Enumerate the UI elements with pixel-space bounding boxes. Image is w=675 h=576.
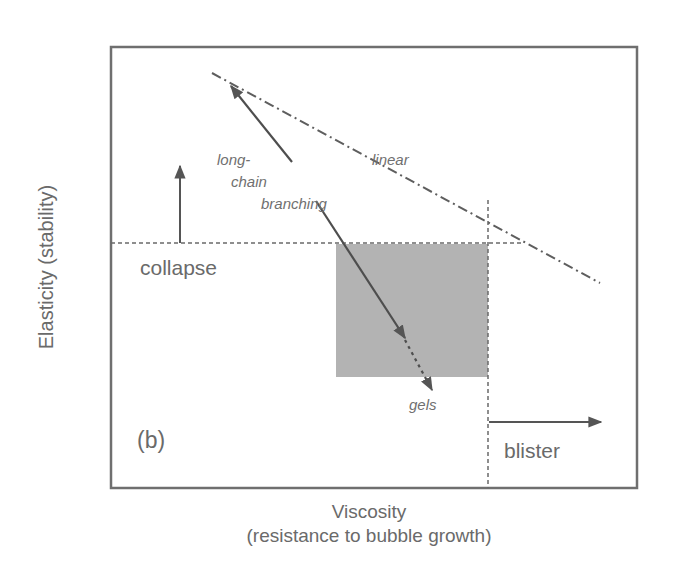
shaded-window-region [336,244,488,377]
long-chain-label-line3: branching [261,195,327,212]
x-axis-label-line2: (resistance to bubble growth) [246,524,491,548]
panel-label: (b) [137,427,165,454]
linear-label: linear [372,151,409,168]
collapse-label: collapse [140,256,217,280]
long-chain-label-line2: chain [231,173,267,190]
blister-label: blister [504,439,560,463]
y-axis-label: Elasticity (stability) [35,185,58,349]
x-axis-label-line1: Viscosity [246,500,491,524]
gels-label: gels [409,396,437,413]
x-axis-label: Viscosity (resistance to bubble growth) [246,500,491,548]
diagram: Elasticity (stability) Viscosity (resist… [0,0,675,576]
long-chain-label-line1: long- [217,151,250,168]
diagram-canvas [0,0,675,576]
